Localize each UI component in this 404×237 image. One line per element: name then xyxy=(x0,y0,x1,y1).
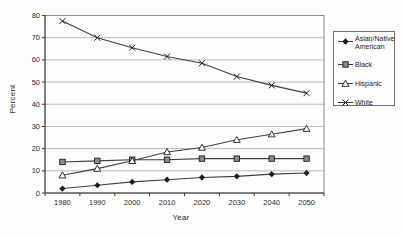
legend-spacer xyxy=(338,69,392,79)
legend-item-asian-native-american: Asian/Native American xyxy=(338,35,392,51)
x-tick-label-2050: 2050 xyxy=(298,198,315,207)
marker-black-2040 xyxy=(269,156,274,161)
legend: Asian/Native American Black Hispanic xyxy=(333,31,395,106)
y-tick-label-30: 30 xyxy=(32,122,40,131)
x-tick-label-2010: 2010 xyxy=(159,198,176,207)
diamond-marker-icon xyxy=(338,37,353,46)
x-tick-label-2040: 2040 xyxy=(263,198,280,207)
legend-spacer xyxy=(338,51,392,60)
legend-label-black: Black xyxy=(355,61,372,69)
y-tick-label-20: 20 xyxy=(32,144,40,153)
legend-label-hispanic: Hispanic xyxy=(355,80,382,88)
marker-black-2050 xyxy=(304,156,309,161)
y-tick-label-60: 60 xyxy=(32,55,40,64)
y-tick-label-10: 10 xyxy=(32,166,40,175)
x-tick-label-1980: 1980 xyxy=(54,198,71,207)
x-marker-icon xyxy=(338,98,353,107)
legend-item-white: White xyxy=(338,98,392,107)
y-tick-label-80: 80 xyxy=(32,11,40,20)
marker-black-2010 xyxy=(164,157,169,162)
legend-item-black: Black xyxy=(338,60,392,69)
triangle-marker-icon xyxy=(338,79,353,88)
y-tick-label-50: 50 xyxy=(32,78,40,87)
square-marker-icon xyxy=(338,60,353,69)
y-axis-title: Percent xyxy=(8,69,18,129)
x-tick-label-2000: 2000 xyxy=(124,198,141,207)
population-projection-chart: 0102030405060708019801990200020102020203… xyxy=(0,0,404,237)
x-tick-label-2020: 2020 xyxy=(194,198,211,207)
legend-label-asian-native-american: Asian/Native American xyxy=(355,35,394,51)
legend-spacer xyxy=(338,88,392,98)
legend-label-white: White xyxy=(355,99,373,107)
marker-black-2030 xyxy=(234,156,239,161)
marker-black-1980 xyxy=(60,159,65,164)
y-tick-label-0: 0 xyxy=(36,189,40,198)
marker-black-2020 xyxy=(199,156,204,161)
x-axis-title: Year xyxy=(151,213,211,223)
x-tick-label-2030: 2030 xyxy=(228,198,245,207)
x-tick-label-1990: 1990 xyxy=(89,198,106,207)
marker-black-1990 xyxy=(95,158,100,163)
y-tick-label-70: 70 xyxy=(32,33,40,42)
y-tick-label-40: 40 xyxy=(32,100,40,109)
legend-item-hispanic: Hispanic xyxy=(338,79,392,88)
